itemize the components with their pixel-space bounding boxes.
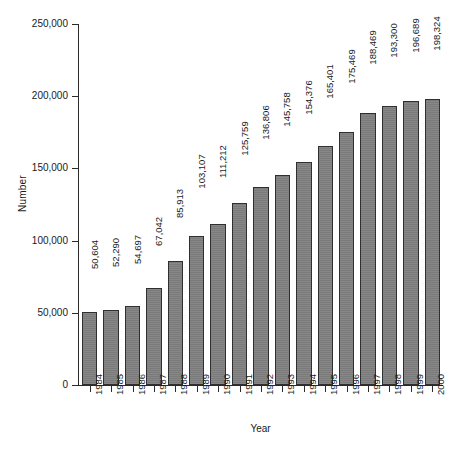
y-axis-tick-label: 200,000 [0, 90, 68, 101]
x-axis-tick [218, 386, 219, 392]
bar-group[interactable]: 154,376 [296, 24, 311, 385]
x-axis-tick [261, 386, 262, 392]
x-axis-tick-label: 1994 [308, 374, 318, 395]
x-axis-tick-label: 1997 [372, 374, 382, 395]
bar[interactable] [339, 132, 354, 385]
x-axis-tick [133, 386, 134, 392]
y-axis-tick-label: 0 [0, 379, 68, 390]
x-axis-tick-label: 1991 [244, 374, 254, 395]
y-axis-tick-label: 50,000 [0, 307, 68, 318]
x-axis-title: Year [78, 423, 443, 434]
bar-value-label: 188,469 [368, 31, 378, 65]
bar-value-label: 175,469 [347, 49, 357, 83]
bar[interactable] [232, 203, 247, 385]
bar-value-label: 111,212 [218, 145, 228, 178]
bar[interactable] [275, 175, 290, 385]
x-axis-tick-label: 1996 [351, 374, 361, 395]
bar-group[interactable]: 50,604 [82, 24, 97, 385]
x-axis-tick [389, 386, 390, 392]
bar[interactable] [360, 113, 375, 385]
bar-value-label: 165,401 [325, 64, 335, 98]
bar[interactable] [318, 146, 333, 385]
bar[interactable] [296, 162, 311, 385]
x-axis-tick [347, 386, 348, 392]
bar-group[interactable]: 111,212 [210, 24, 225, 385]
x-axis-tick [197, 386, 198, 392]
x-axis-tick [432, 386, 433, 392]
bar[interactable] [425, 99, 440, 385]
bar-group[interactable]: 54,697 [125, 24, 140, 385]
bar-value-label: 85,913 [175, 189, 185, 218]
x-axis-tick-label: 1992 [265, 374, 275, 395]
x-axis-tick [325, 386, 326, 392]
x-axis-tick-label: 1999 [415, 374, 425, 395]
bar-group[interactable]: 125,759 [232, 24, 247, 385]
y-axis-tick-label: 250,000 [0, 18, 68, 29]
x-axis-tick [368, 386, 369, 392]
bar-value-label: 52,290 [111, 238, 121, 267]
bar-chart-figure: Number 050,000100,000150,000200,000250,0… [0, 0, 453, 450]
x-axis-tick [304, 386, 305, 392]
bar-group[interactable]: 165,401 [318, 24, 333, 385]
bar[interactable] [403, 101, 418, 385]
bar-value-label: 136,806 [261, 105, 271, 139]
x-axis-tick-label: 1985 [115, 374, 125, 395]
x-axis-tick [90, 386, 91, 392]
bar-group[interactable]: 52,290 [103, 24, 118, 385]
x-axis-tick-label: 1998 [393, 374, 403, 395]
x-axis-tick-label: 2000 [436, 374, 446, 395]
bar-value-label: 154,376 [304, 80, 314, 114]
bar-value-label: 193,300 [389, 24, 399, 58]
bar-group[interactable]: 193,300 [382, 24, 397, 385]
x-axis-tick-label: 1995 [329, 374, 339, 395]
x-axis-tick [154, 386, 155, 392]
x-axis-tick-label: 1990 [222, 374, 232, 395]
x-axis-tick [111, 386, 112, 392]
bar-value-label: 125,759 [240, 121, 250, 155]
x-axis-tick-label: 1987 [158, 374, 168, 395]
bar-value-label: 103,107 [197, 154, 207, 188]
bar[interactable] [168, 261, 183, 385]
bar[interactable] [210, 224, 225, 385]
bar[interactable] [253, 187, 268, 385]
bar[interactable] [189, 236, 204, 385]
bar-group[interactable]: 188,469 [360, 24, 375, 385]
bar-group[interactable]: 67,042 [146, 24, 161, 385]
bar-group[interactable]: 196,689 [403, 24, 418, 385]
x-axis-tick-label: 1993 [286, 374, 296, 395]
bar-value-label: 196,689 [411, 19, 421, 53]
bar-value-label: 198,324 [432, 16, 442, 50]
x-axis-tick [282, 386, 283, 392]
x-axis-tick-label: 1986 [137, 374, 147, 395]
x-axis-tick-label: 1984 [94, 374, 104, 395]
x-axis-tick [411, 386, 412, 392]
plot-area: 50,60452,29054,69767,04285,913103,107111… [79, 24, 443, 385]
x-axis-tick [240, 386, 241, 392]
bar-group[interactable]: 136,806 [253, 24, 268, 385]
bar-group[interactable]: 145,758 [275, 24, 290, 385]
y-axis-tick-label: 100,000 [0, 235, 68, 246]
x-axis-tick-label: 1989 [201, 374, 211, 395]
y-axis-tick-label: 150,000 [0, 162, 68, 173]
bar-group[interactable]: 175,469 [339, 24, 354, 385]
bar-group[interactable]: 85,913 [168, 24, 183, 385]
bar-value-label: 50,604 [90, 240, 100, 269]
x-axis-tick [175, 386, 176, 392]
bar-value-label: 67,042 [154, 217, 164, 246]
bar[interactable] [146, 288, 161, 385]
x-axis-tick-label: 1988 [179, 374, 189, 395]
bar-value-label: 54,697 [133, 234, 143, 263]
bar-value-label: 145,758 [282, 92, 292, 126]
bar[interactable] [382, 106, 397, 385]
bar-group[interactable]: 103,107 [189, 24, 204, 385]
bar-group[interactable]: 198,324 [425, 24, 440, 385]
